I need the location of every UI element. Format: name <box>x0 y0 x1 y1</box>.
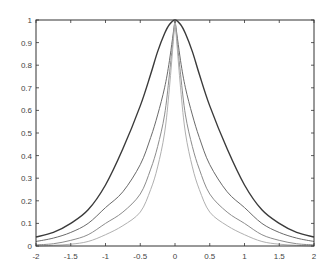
series-curve-4 <box>175 20 314 246</box>
y-tick-label: 0.2 <box>21 197 33 206</box>
y-tick-label: 0.5 <box>21 129 33 138</box>
x-tick-label: -2 <box>32 252 40 261</box>
y-axis-tick-labels: 00.10.20.30.40.50.60.70.80.91 <box>21 16 33 251</box>
y-tick-label: 0.8 <box>21 61 33 70</box>
series-layer <box>36 20 314 246</box>
x-axis-tick-labels: -2-1.5-1-0.500.511.52 <box>32 252 316 261</box>
x-tick-label: 0.5 <box>204 252 216 261</box>
series-curve-1 <box>36 20 314 237</box>
plot-area-frame <box>36 20 314 246</box>
y-tick-label: 0 <box>28 242 33 251</box>
x-tick-label: 2 <box>312 252 317 261</box>
line-chart: -2-1.5-1-0.500.511.52 00.10.20.30.40.50.… <box>0 0 334 275</box>
x-tick-label: 1 <box>242 252 247 261</box>
x-tick-label: -1 <box>102 252 110 261</box>
series-curve-3 <box>36 20 175 245</box>
x-tick-label: 0 <box>173 252 178 261</box>
x-tick-label: -1.5 <box>64 252 78 261</box>
y-tick-label: 0.6 <box>21 106 33 115</box>
x-tick-label: 1.5 <box>274 252 286 261</box>
series-curve-3 <box>175 20 314 245</box>
y-tick-label: 0.9 <box>21 39 33 48</box>
axis-ticks <box>36 20 314 246</box>
y-tick-label: 0.1 <box>21 219 33 228</box>
x-tick-label: -0.5 <box>133 252 147 261</box>
series-curve-4 <box>36 20 175 246</box>
series-curve-2 <box>175 20 314 241</box>
y-tick-label: 0.4 <box>21 152 33 161</box>
y-tick-label: 0.7 <box>21 84 33 93</box>
y-tick-label: 1 <box>28 16 33 25</box>
y-tick-label: 0.3 <box>21 174 33 183</box>
series-curve-2 <box>36 20 175 241</box>
